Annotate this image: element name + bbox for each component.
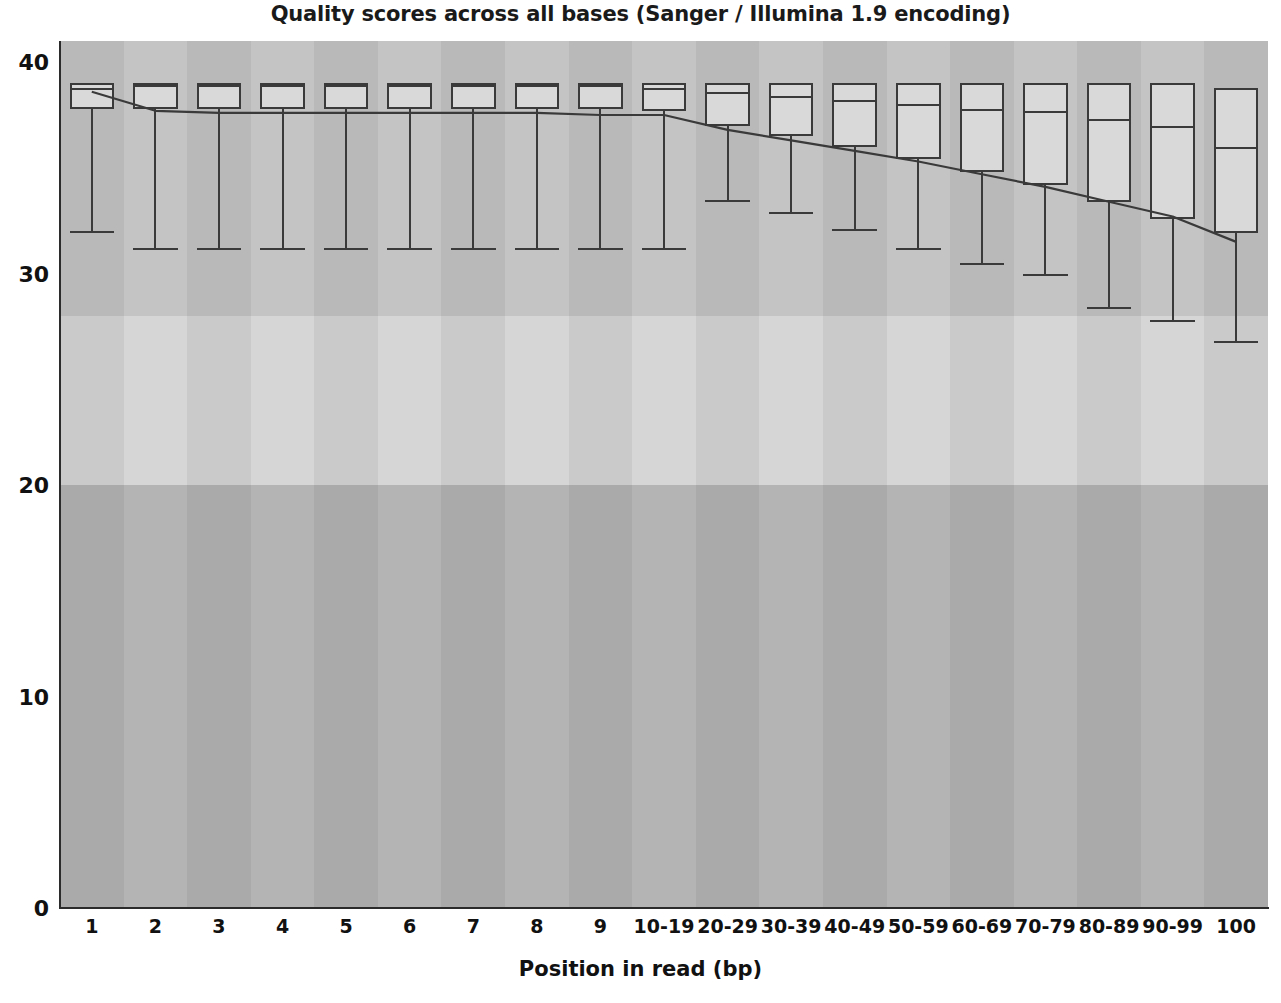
whisker-stem-lower: [727, 126, 729, 200]
plot-area: [60, 41, 1268, 908]
median-line: [896, 104, 941, 106]
whisker-cap-lower: [70, 231, 115, 233]
y-tick-label: 40: [0, 50, 49, 75]
x-tick-label: 30-39: [761, 915, 822, 937]
interquartile-box: [832, 83, 877, 146]
whisker-stem-lower: [536, 109, 538, 249]
x-tick-label: 20-29: [697, 915, 758, 937]
median-line: [324, 85, 369, 87]
median-line: [197, 85, 242, 87]
quality-score-boxplot-chart: Quality scores across all bases (Sanger …: [0, 0, 1281, 1003]
median-line: [1087, 119, 1132, 121]
whisker-cap-lower: [387, 248, 432, 250]
interquartile-box: [705, 83, 750, 125]
x-tick-label: 100: [1216, 915, 1256, 937]
median-line: [515, 85, 560, 87]
whisker-stem-lower: [854, 147, 856, 229]
whisker-cap-lower: [197, 248, 242, 250]
whisker-stem-lower: [1235, 233, 1237, 341]
whisker-stem-lower: [917, 159, 919, 248]
median-line: [960, 109, 1005, 111]
y-tick-label: 30: [0, 261, 49, 286]
x-tick-label: 8: [530, 915, 543, 937]
median-line: [451, 85, 496, 87]
median-line: [1214, 147, 1259, 149]
median-line: [70, 88, 115, 90]
x-tick-label: 5: [339, 915, 352, 937]
x-tick-label: 50-59: [888, 915, 949, 937]
x-tick-label: 10-19: [634, 915, 695, 937]
whisker-cap-lower: [515, 248, 560, 250]
y-axis-line: [59, 41, 61, 909]
whisker-stem-lower: [1172, 219, 1174, 321]
whisker-stem-lower: [790, 136, 792, 212]
whisker-stem-lower: [472, 109, 474, 249]
whisker-cap-lower: [896, 248, 941, 250]
median-line: [1150, 126, 1195, 128]
interquartile-box: [960, 83, 1005, 172]
median-line: [705, 92, 750, 94]
interquartile-box: [769, 83, 814, 136]
median-line: [387, 85, 432, 87]
x-tick-label: 7: [467, 915, 480, 937]
whisker-cap-lower: [324, 248, 369, 250]
whisker-cap-lower: [1087, 307, 1132, 309]
whisker-stem-lower: [1108, 202, 1110, 308]
whisker-stem-lower: [599, 109, 601, 249]
median-line: [1023, 111, 1068, 113]
median-line: [260, 85, 305, 87]
y-tick-label: 10: [0, 684, 49, 709]
x-axis-title: Position in read (bp): [0, 957, 1281, 981]
whisker-cap-lower: [578, 248, 623, 250]
x-tick-label: 70-79: [1015, 915, 1076, 937]
x-tick-label: 40-49: [824, 915, 885, 937]
whisker-cap-lower: [260, 248, 305, 250]
whisker-stem-lower: [1044, 185, 1046, 274]
median-line: [578, 85, 623, 87]
whisker-cap-lower: [133, 248, 178, 250]
whisker-stem-lower: [663, 111, 665, 248]
whisker-cap-lower: [1150, 320, 1195, 322]
x-tick-label: 1: [85, 915, 98, 937]
interquartile-box: [1150, 83, 1195, 218]
interquartile-box: [896, 83, 941, 159]
whisker-cap-lower: [451, 248, 496, 250]
whisker-cap-lower: [1023, 274, 1068, 276]
x-tick-label: 90-99: [1142, 915, 1203, 937]
x-tick-label: 2: [149, 915, 162, 937]
x-tick-label: 80-89: [1079, 915, 1140, 937]
median-line: [642, 88, 687, 90]
median-line: [832, 100, 877, 102]
median-line: [769, 96, 814, 98]
y-tick-label: 20: [0, 473, 49, 498]
x-tick-label: 4: [276, 915, 289, 937]
whisker-cap-lower: [769, 212, 814, 214]
page-title: Quality scores across all bases (Sanger …: [0, 2, 1281, 26]
whisker-stem-lower: [345, 109, 347, 249]
x-tick-label: 9: [594, 915, 607, 937]
whisker-stem-lower: [154, 109, 156, 249]
x-tick-label: 60-69: [952, 915, 1013, 937]
interquartile-box: [1087, 83, 1132, 201]
whisker-stem-lower: [91, 109, 93, 232]
whisker-stem-lower: [218, 109, 220, 249]
whisker-cap-lower: [642, 248, 687, 250]
x-axis-line: [59, 907, 1269, 909]
interquartile-box: [1214, 88, 1259, 234]
x-tick-label: 6: [403, 915, 416, 937]
whisker-cap-lower: [705, 200, 750, 202]
whisker-stem-lower: [981, 172, 983, 263]
y-tick-label: 0: [0, 896, 49, 921]
median-line: [133, 85, 178, 87]
whisker-cap-lower: [1214, 341, 1259, 343]
whisker-cap-lower: [832, 229, 877, 231]
interquartile-box: [1023, 83, 1068, 185]
x-tick-label: 3: [212, 915, 225, 937]
whisker-cap-lower: [960, 263, 1005, 265]
whisker-stem-lower: [282, 109, 284, 249]
whisker-stem-lower: [409, 109, 411, 249]
